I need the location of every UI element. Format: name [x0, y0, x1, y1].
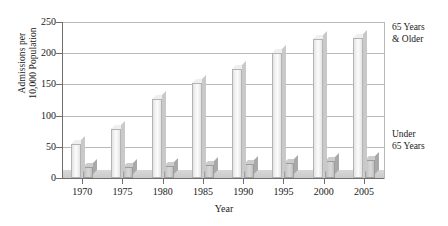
chart-floor-edge: [62, 178, 384, 179]
series-annotation-under: Under 65 Years: [392, 129, 425, 153]
x-tick-label: 1990: [220, 186, 266, 197]
bar-1990-older: [232, 69, 242, 178]
x-tick-mark: [324, 179, 325, 184]
bar-group: [263, 22, 303, 178]
bar-face: [353, 38, 363, 178]
x-tick-mark: [203, 179, 204, 184]
bar-1985-older: [192, 83, 202, 178]
y-tick-mark: [56, 147, 62, 148]
bar-side: [214, 157, 218, 174]
bar-group: [183, 22, 223, 178]
y-tick-mark: [56, 178, 62, 179]
series-annotation-older-line-2: & Older: [392, 34, 425, 46]
bar-group: [143, 22, 183, 178]
x-tick-label: 1985: [180, 186, 226, 197]
bar-side: [162, 91, 166, 174]
bar-group: [223, 22, 263, 178]
y-tick-label: 50: [26, 142, 56, 152]
right-axis-line: [384, 22, 385, 179]
x-tick-label: 1995: [260, 186, 306, 197]
y-tick-mark: [56, 53, 62, 54]
bar-1970-older: [71, 144, 81, 178]
bar-side: [81, 136, 85, 174]
bar-side: [335, 153, 339, 174]
y-tick-label: 100: [26, 111, 56, 121]
series-annotation-older: 65 Years & Older: [392, 22, 425, 46]
y-tick-label: 200: [26, 48, 56, 58]
bar-side: [363, 30, 367, 174]
y-tick-mark: [56, 22, 62, 23]
y-tick-label: 250: [26, 17, 56, 27]
x-axis-title: Year: [0, 203, 448, 214]
bar-group: [304, 22, 344, 178]
series-annotation-older-line-1: 65 Years: [392, 22, 425, 34]
admissions-bar-chart: Admissions per 10,000 Population 0501001…: [0, 0, 448, 226]
bar-side: [254, 156, 258, 174]
bar-side: [133, 159, 137, 174]
bar-1980-older: [152, 99, 162, 178]
bar-group: [62, 22, 102, 178]
bar-group: [102, 22, 142, 178]
x-tick-mark: [122, 179, 123, 184]
x-tick-label: 1980: [140, 186, 186, 197]
x-tick-mark: [364, 179, 365, 184]
series-annotation-under-line-1: Under: [392, 129, 425, 141]
x-tick-label: 1975: [99, 186, 145, 197]
x-tick-mark: [243, 179, 244, 184]
bar-side: [323, 31, 327, 174]
bar-face: [192, 83, 202, 178]
x-tick-label: 2000: [301, 186, 347, 197]
bar-face: [111, 129, 121, 178]
bar-side: [282, 45, 286, 174]
bar-face: [232, 69, 242, 178]
bar-2005-older: [353, 38, 363, 178]
bar-side: [93, 159, 97, 174]
x-tick-label: 2005: [341, 186, 387, 197]
y-axis-tick-labels: 050100150200250: [26, 0, 56, 226]
bar-side: [121, 121, 125, 174]
bar-side: [202, 75, 206, 174]
y-tick-label: 0: [26, 173, 56, 183]
x-tick-mark: [163, 179, 164, 184]
x-tick-mark: [283, 179, 284, 184]
x-tick-label: 1970: [59, 186, 105, 197]
bars-layer: [62, 22, 384, 178]
bar-face: [272, 53, 282, 178]
y-tick-label: 150: [26, 79, 56, 89]
bar-side: [375, 152, 379, 174]
y-tick-mark: [56, 116, 62, 117]
bar-group: [344, 22, 384, 178]
y-tick-mark: [56, 84, 62, 85]
bar-face: [313, 39, 323, 178]
bar-side: [294, 155, 298, 174]
bar-1995-older: [272, 53, 282, 178]
x-tick-mark: [82, 179, 83, 184]
bar-2000-older: [313, 39, 323, 178]
bar-face: [71, 144, 81, 178]
bar-side: [242, 61, 246, 174]
bar-side: [174, 158, 178, 174]
bar-face: [152, 99, 162, 178]
bar-1975-older: [111, 129, 121, 178]
series-annotation-under-line-2: 65 Years: [392, 141, 425, 153]
